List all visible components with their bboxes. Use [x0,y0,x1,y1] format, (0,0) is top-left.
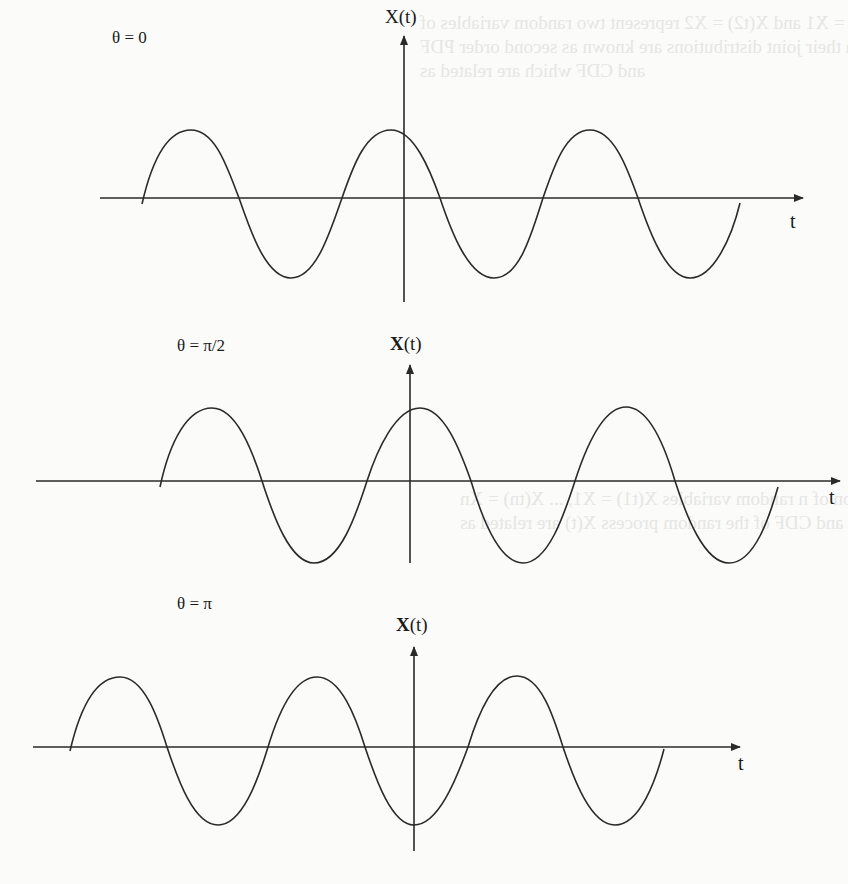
y-axis-label-var: X [385,6,399,27]
theta-label: θ = π [177,594,212,614]
y-axis-label: X(t) [390,333,422,355]
theta-label: θ = π/2 [177,336,225,356]
waveform-diagram [0,0,848,884]
panel-theta-pi-2 [36,365,840,563]
panel-theta-pi [33,647,740,851]
cosine-wave [160,407,778,563]
panel-theta-0 [100,36,803,302]
y-axis-label-arg: (t) [404,333,422,354]
y-axis-label-arg: (t) [399,6,417,27]
y-axis-label-var: X [396,614,410,635]
y-axis-label-arg: (t) [410,614,428,635]
cosine-wave [142,130,740,278]
x-axis-label: t [790,210,796,233]
theta-label: θ = 0 [112,28,147,48]
y-axis-label: X(t) [385,6,417,28]
cosine-wave [70,676,664,825]
x-axis-label: t [738,752,744,775]
y-axis-label: X(t) [396,614,428,636]
x-axis-label: t [829,486,835,509]
y-axis-label-var: X [390,333,404,354]
